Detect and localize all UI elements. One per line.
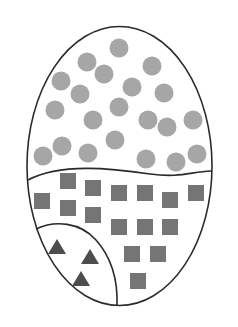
square-shape [85,180,101,196]
venn-ellipse-diagram [0,0,238,327]
square-shape [137,219,153,235]
triangle-shape [81,249,99,264]
triangle-shape [72,271,90,286]
square-shape [85,207,101,223]
circle-shape [52,72,71,91]
square-shape [111,185,127,201]
circle-shape [137,150,156,169]
square-shape [60,200,76,216]
circle-shape [110,98,129,117]
square-shape [124,246,140,262]
square-shape [188,185,204,201]
circle-shape [143,57,162,76]
circle-shape [79,144,98,163]
circle-shape [184,111,203,130]
circle-shape [71,85,90,104]
circle-shape [158,118,177,137]
square-shape [60,173,76,189]
triangle-shape [48,239,66,254]
circle-shape [167,153,186,172]
square-shape [137,185,153,201]
circle-shape [106,131,125,150]
circles-group [34,39,207,172]
circle-shape [123,78,142,97]
square-shape [162,192,178,208]
circle-shape [78,53,97,72]
circle-shape [155,84,174,103]
circle-shape [139,111,158,130]
square-shape [150,246,166,262]
triangle-region-boundary [36,224,117,306]
square-shape [111,219,127,235]
square-shape [130,273,146,289]
circle-shape [188,145,207,164]
circle-shape [34,147,53,166]
square-shape [34,193,50,209]
circle-shape [46,101,65,120]
triangles-group [48,239,99,286]
circle-shape [53,137,72,156]
circle-shape [84,111,103,130]
square-shape [162,219,178,235]
circle-square-boundary [28,168,211,180]
circle-shape [95,65,114,84]
circle-shape [110,39,129,58]
